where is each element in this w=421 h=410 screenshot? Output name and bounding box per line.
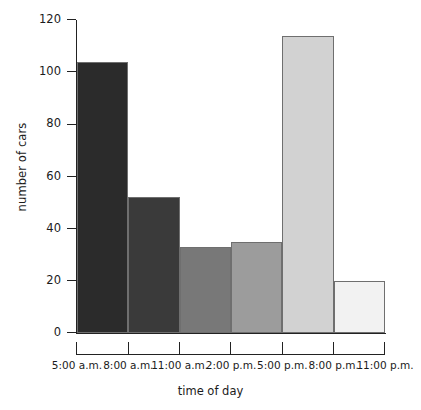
y-tick-label: 0 [27,327,61,339]
y-tick-mark [67,228,76,229]
x-axis-title: time of day [0,384,421,398]
histogram-bar [282,36,333,333]
y-tick-mark [67,71,76,72]
histogram-bar [180,247,231,333]
y-tick-mark [67,176,76,177]
histogram-bar [77,62,128,333]
histogram-bar [128,197,179,333]
y-tick-label: 60 [27,171,61,183]
y-tick-label: 120 [27,14,61,26]
histogram-bar [334,281,385,333]
histogram-chart: number of cars 020406080100120 5:00 a.m.… [0,0,421,410]
y-tick-mark [67,332,76,333]
y-tick-label: 80 [27,118,61,130]
y-tick-mark [67,280,76,281]
x-axis-line [76,333,386,334]
y-tick-label: 100 [27,66,61,78]
y-tick-label: 40 [27,223,61,235]
histogram-bar [231,242,282,333]
y-tick-label: 20 [27,275,61,287]
plot-area [77,20,385,333]
y-tick-mark [67,124,76,125]
x-tick-label: 11:00 p.m. [347,359,421,371]
x-axis-tick-rail [77,354,385,355]
y-tick-mark [67,19,76,20]
